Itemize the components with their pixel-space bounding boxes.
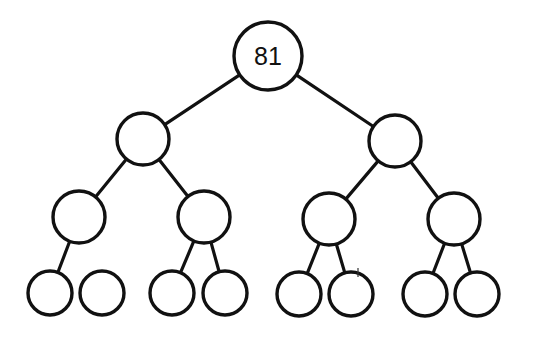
node-circle bbox=[428, 193, 480, 245]
node-circle bbox=[117, 113, 169, 165]
node-circle bbox=[80, 271, 124, 315]
node-circle bbox=[150, 271, 194, 315]
tree-edge bbox=[165, 75, 240, 125]
node-circle bbox=[28, 271, 72, 315]
root-node: 81 bbox=[234, 22, 302, 90]
tree-node bbox=[455, 272, 499, 316]
tree-edges bbox=[58, 75, 471, 274]
tree-edge bbox=[181, 241, 194, 273]
tree-edge bbox=[462, 244, 471, 273]
tree-node bbox=[369, 115, 421, 167]
tree-edge bbox=[58, 241, 70, 272]
tree-edge bbox=[433, 243, 445, 273]
tree-node bbox=[117, 113, 169, 165]
tree-node bbox=[277, 272, 321, 316]
tree-node bbox=[28, 271, 72, 315]
node-circle bbox=[277, 272, 321, 316]
tree-edge bbox=[211, 242, 219, 272]
node-circle bbox=[455, 272, 499, 316]
tree-edge bbox=[336, 244, 344, 273]
node-label: 81 bbox=[254, 42, 282, 70]
tree-node bbox=[150, 271, 194, 315]
tree-node bbox=[53, 191, 105, 243]
binary-tree-diagram: 81 bbox=[0, 0, 538, 344]
tree-edge bbox=[159, 159, 188, 196]
tree-node bbox=[329, 272, 373, 316]
node-circle bbox=[53, 191, 105, 243]
node-circle bbox=[178, 191, 230, 243]
tree-edge bbox=[307, 243, 319, 273]
tree-node bbox=[428, 193, 480, 245]
tree-node bbox=[303, 193, 355, 245]
node-circle bbox=[303, 193, 355, 245]
tree-node bbox=[403, 272, 447, 316]
tree-edge bbox=[346, 161, 378, 199]
node-circle bbox=[329, 272, 373, 316]
tree-nodes: 81 bbox=[28, 22, 499, 316]
tree-edge bbox=[95, 159, 126, 197]
tree-edge bbox=[411, 162, 439, 199]
node-circle bbox=[203, 271, 247, 315]
node-circle bbox=[403, 272, 447, 316]
tree-node bbox=[80, 271, 124, 315]
tree-node bbox=[178, 191, 230, 243]
node-circle bbox=[369, 115, 421, 167]
tree-node bbox=[203, 271, 247, 315]
tree-edge bbox=[296, 75, 373, 127]
